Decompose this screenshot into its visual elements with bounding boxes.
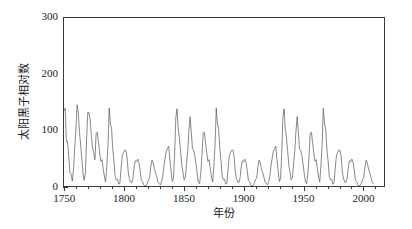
y-tick-label: 300 [28,11,58,22]
x-tick-minor [148,187,149,189]
x-tick-label: 1800 [101,192,147,204]
x-tick-major [363,187,364,191]
x-tick-minor [88,187,89,189]
x-tick-major [64,187,65,191]
x-tick-major [244,187,245,191]
x-tick-minor [112,187,113,189]
x-tick-major [124,187,125,191]
x-tick-minor [328,187,329,189]
x-tick-minor [232,187,233,189]
x-tick-label: 1900 [221,192,267,204]
sunspot-chart-figure: 太阳黑子相对数 01002003001750180018501900195020… [0,0,412,229]
x-tick-minor [172,187,173,189]
x-tick-major [304,187,305,191]
x-tick-minor [280,187,281,189]
y-tick-label: 100 [28,124,58,135]
x-tick-label: 1850 [161,192,207,204]
x-tick-minor [375,187,376,189]
x-tick-minor [256,187,257,189]
x-tick-minor [160,187,161,189]
x-tick-minor [220,187,221,189]
x-tick-label: 1750 [41,192,87,204]
x-tick-label: 2000 [340,192,386,204]
y-tick-label: 0 [28,181,58,192]
x-tick-minor [76,187,77,189]
x-tick-minor [100,187,101,189]
x-tick-minor [340,187,341,189]
x-tick-minor [136,187,137,189]
y-axis-title: 太阳黑子相对数 [18,31,30,171]
x-tick-minor [268,187,269,189]
x-tick-minor [208,187,209,189]
sunspot-series-line [64,18,384,186]
x-tick-minor [351,187,352,189]
x-tick-label: 1950 [281,192,327,204]
y-tick-label: 200 [28,68,58,79]
plot-area [63,17,385,187]
x-tick-minor [316,187,317,189]
x-tick-minor [196,187,197,189]
x-axis-title: 年份 [63,207,385,219]
x-tick-major [184,187,185,191]
x-tick-minor [292,187,293,189]
